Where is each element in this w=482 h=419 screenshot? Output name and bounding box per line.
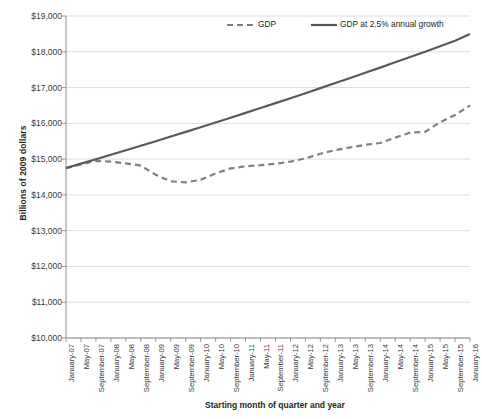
x-tick-label: January-08 [112, 344, 121, 414]
x-tick-label: May-10 [217, 344, 226, 414]
x-tick-label: September-14 [411, 344, 420, 414]
gdp-line-chart: Billions of 2009 dollars Starting month … [0, 0, 482, 419]
legend-label-2: GDP at 2.5% annual growth [340, 19, 444, 29]
x-tick-label: January-12 [291, 344, 300, 414]
x-tick-label: September-10 [232, 344, 241, 414]
x-tick-label: September-07 [97, 344, 106, 414]
x-tick-label: September-08 [142, 344, 151, 414]
x-tick-label: May-07 [82, 344, 91, 414]
x-tick-label: May-09 [172, 344, 181, 414]
x-tick-label: September-09 [187, 344, 196, 414]
x-tick-label: January-11 [247, 344, 256, 414]
x-tick-label: January-14 [381, 344, 390, 414]
x-tick-label: September-13 [366, 344, 375, 414]
legend-label-1: GDP [258, 19, 276, 29]
x-axis-tick-labels: January-07May-07September-07January-08Ma… [0, 0, 482, 419]
x-tick-label: January-10 [202, 344, 211, 414]
x-tick-label: May-08 [127, 344, 136, 414]
x-tick-label: May-12 [306, 344, 315, 414]
x-tick-label: May-11 [262, 344, 271, 414]
x-tick-label: May-15 [441, 344, 450, 414]
x-tick-label: January-15 [426, 344, 435, 414]
x-tick-label: September-11 [276, 344, 285, 414]
x-tick-label: January-13 [336, 344, 345, 414]
x-tick-label: January-09 [157, 344, 166, 414]
x-tick-label: September-15 [456, 344, 465, 414]
x-tick-label: January-16 [471, 344, 480, 414]
x-tick-label: May-14 [396, 344, 405, 414]
x-tick-label: January-07 [67, 344, 76, 414]
x-tick-label: September-12 [321, 344, 330, 414]
x-tick-label: May-13 [351, 344, 360, 414]
